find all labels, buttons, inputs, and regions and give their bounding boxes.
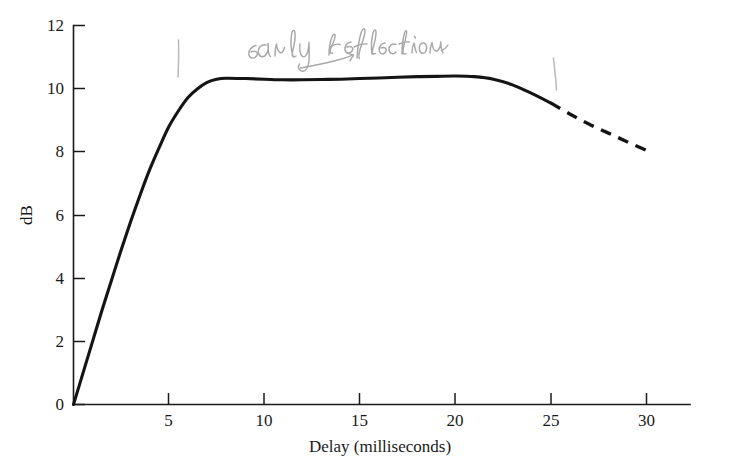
- early-reflection-handwriting: [249, 29, 448, 71]
- chart-figure: 12 10 8 6 4 2 0 dB 5 10: [0, 0, 735, 474]
- x-tick-label-15: 15: [351, 411, 368, 430]
- x-axis-tick-labels: 5 10 15 20 25 30: [164, 411, 655, 430]
- x-axis-title: Delay (milliseconds): [309, 437, 451, 456]
- y-tick-label-8: 8: [56, 142, 65, 161]
- x-tick-label-25: 25: [543, 411, 560, 430]
- y-axis: 12 10 8 6 4 2 0 dB: [17, 16, 85, 414]
- y-tick-label-12: 12: [47, 16, 64, 35]
- x-axis: 5 10 15 20 25 30 Delay (milliseconds): [74, 393, 691, 456]
- pencil-tick-left: [178, 40, 179, 77]
- x-tick-label-10: 10: [256, 411, 273, 430]
- data-curve-dashed: [551, 103, 646, 150]
- y-axis-ticks: [74, 26, 86, 405]
- x-tick-label-30: 30: [638, 411, 655, 430]
- y-tick-label-2: 2: [56, 332, 65, 351]
- x-tick-label-5: 5: [164, 411, 173, 430]
- x-tick-label-20: 20: [447, 411, 464, 430]
- y-axis-title: dB: [17, 205, 36, 225]
- y-tick-label-4: 4: [56, 269, 65, 288]
- y-tick-label-0: 0: [56, 395, 65, 414]
- y-axis-tick-labels: 12 10 8 6 4 2 0: [47, 16, 65, 414]
- x-axis-ticks: [169, 393, 647, 405]
- chart-canvas: 12 10 8 6 4 2 0 dB 5 10: [0, 0, 735, 474]
- y-tick-label-10: 10: [47, 79, 64, 98]
- y-tick-label-6: 6: [56, 206, 65, 225]
- data-curve-solid: [74, 76, 551, 404]
- pencil-tick-right: [554, 58, 557, 90]
